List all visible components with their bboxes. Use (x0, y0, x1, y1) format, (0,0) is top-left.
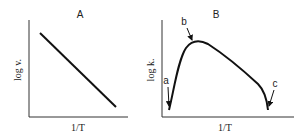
panel-b-curve (169, 41, 268, 110)
annotation-c: c (273, 78, 278, 89)
panel-b-xlabel: 1/T (218, 122, 232, 133)
panel-a: A log v. 1/T (12, 9, 128, 133)
figure: A log v. 1/T B log k. 1/T a b c (0, 0, 299, 137)
panel-a-xlabel: 1/T (71, 122, 85, 133)
arrow-c-icon (269, 90, 274, 106)
arrow-b-icon (187, 28, 192, 40)
panel-a-title: A (77, 9, 84, 20)
panel-b-title: B (213, 9, 220, 20)
panel-b: B log k. 1/T a b c (145, 9, 294, 133)
annotation-b: b (181, 16, 187, 27)
panel-a-ylabel: log v. (12, 59, 23, 81)
panel-b-ylabel: log k. (145, 59, 156, 82)
panel-a-line (40, 33, 116, 107)
annotation-a: a (163, 75, 169, 86)
arrow-a-icon (168, 87, 169, 106)
